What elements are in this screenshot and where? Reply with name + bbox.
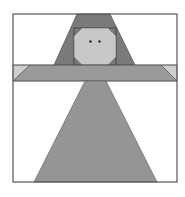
left-eye-icon bbox=[89, 40, 91, 42]
arm-band-piece bbox=[13, 65, 177, 81]
right-eye-icon bbox=[98, 40, 100, 42]
face-piece bbox=[74, 28, 116, 65]
quilt-block-figure bbox=[0, 0, 185, 197]
